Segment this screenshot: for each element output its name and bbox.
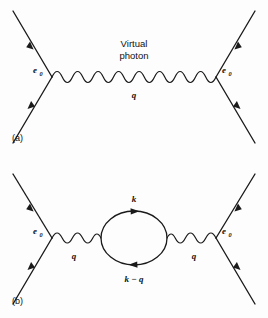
arrow-head-loop-top-b [131,208,140,214]
vertex-label-right-b: e 0 [222,226,232,238]
vertex-label-left-b-text: e [33,226,37,236]
fermion-legs-right-a [216,11,255,143]
virtual-photon-propagator-a [52,72,216,83]
vertex-label-left-b: e 0 [33,226,43,238]
fermion-line-lower-right-a [216,77,255,143]
vertex-label-right-a-subscript: 0 [229,70,232,77]
fermion-legs-left-a [13,11,52,143]
vertex-label-right-a: e 0 [222,65,232,77]
feynman-diagram-panel-b: e 0 e 0 q q k k − q (b) [0,158,268,318]
arrow-head-loop-bottom-b [129,261,138,267]
vertex-label-right-b-text: e [222,226,226,236]
photon-propagator-left-b [52,233,101,243]
vertex-label-left-a-subscript: 0 [40,70,43,77]
fermion-legs-right-b [216,174,255,304]
virtual-photon-label-line2: photon [119,50,148,61]
feynman-figure: e 0 e 0 Virtual photon q (a) [0,0,268,318]
vertex-label-left-b-subscript: 0 [40,231,43,238]
vertex-label-left-a-text: e [33,65,37,75]
virtual-photon-label-line1: Virtual [121,38,148,49]
panel-label-b: (b) [12,296,23,306]
vertex-label-left-a: e 0 [33,65,43,77]
fermion-legs-left-b [13,174,52,304]
fermion-line-lower-left-b [13,238,52,304]
vertex-label-right-a-text: e [222,65,226,75]
loop-momentum-label-k: k [132,194,137,204]
photon-propagator-right-b [167,233,216,243]
momentum-label-q-a: q [132,90,137,100]
momentum-label-q-right-b: q [192,251,197,261]
vertex-label-right-b-subscript: 0 [229,231,232,238]
fermion-loop-b [101,211,167,265]
feynman-diagram-panel-a: e 0 e 0 Virtual photon q (a) [0,0,268,158]
fermion-line-lower-right-b [216,238,255,304]
loop-momentum-label-k-minus-q: k − q [125,274,144,284]
panel-label-a: (a) [12,133,23,143]
momentum-label-q-left-b: q [72,251,77,261]
